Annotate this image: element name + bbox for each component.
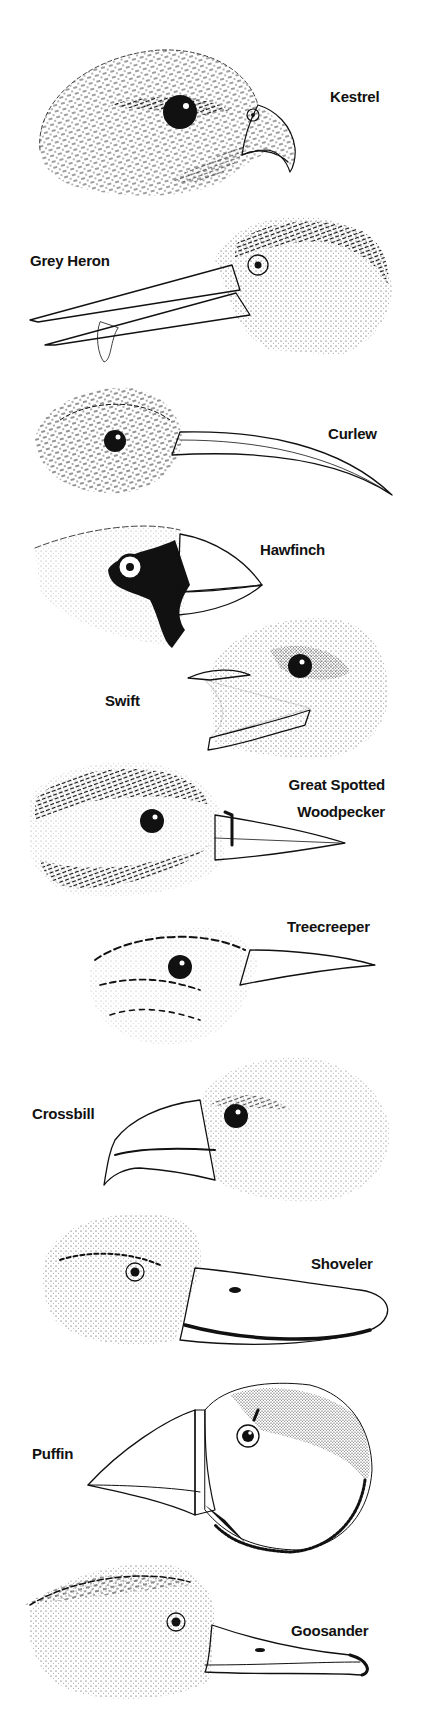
label-treecreeper: Treecreeper [287, 918, 370, 936]
kestrel-head-illustration [40, 50, 296, 196]
label-hawfinch: Hawfinch [260, 541, 325, 559]
label-goosander: Goosander [291, 1622, 368, 1640]
shoveler-head-illustration [43, 1214, 388, 1345]
hawfinch-head-illustration [35, 526, 262, 648]
label-shoveler: Shoveler [311, 1255, 373, 1273]
crossbill-head-illustration [104, 1058, 390, 1202]
label-swift: Swift [105, 692, 140, 710]
label-great-spotted-woodpecker-line2: Woodpecker [265, 803, 385, 821]
treecreeper-head-illustration [90, 928, 375, 1045]
label-puffin: Puffin [32, 1445, 73, 1463]
bird-bills-plate: Kestrel Grey Heron Curlew Hawfinch Swift… [0, 0, 423, 1725]
label-kestrel: Kestrel [330, 88, 379, 106]
label-grey-heron: Grey Heron [30, 252, 110, 270]
puffin-head-illustration [88, 1383, 372, 1552]
grey-heron-head-illustration [30, 217, 392, 362]
label-crossbill: Crossbill [32, 1105, 94, 1123]
label-curlew: Curlew [328, 425, 377, 443]
label-great-spotted-woodpecker-line1: Great Spotted [265, 776, 385, 794]
swift-head-illustration [188, 618, 388, 758]
